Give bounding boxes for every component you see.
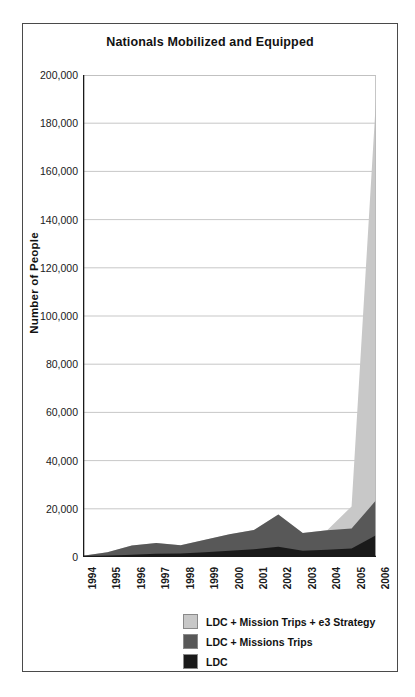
legend-item: LDC + Mission Trips + e3 Strategy (183, 612, 383, 631)
y-axis-label: Number of People (28, 203, 40, 363)
legend-item: LDC (183, 652, 383, 671)
chart-svg (83, 75, 376, 557)
chart-figure: Nationals Mobilized and Equipped Number … (22, 23, 398, 672)
x-tick-label: 2000 (234, 567, 245, 589)
y-tick-label: 120,000 (40, 262, 78, 274)
y-tick-label: 0 (72, 551, 78, 563)
x-tick-label: 2002 (282, 567, 293, 589)
legend-label: LDC (206, 656, 228, 668)
legend-swatch-icon (183, 654, 198, 669)
y-tick-label: 40,000 (46, 455, 78, 467)
y-tick-label: 80,000 (46, 358, 78, 370)
y-tick-label: 100,000 (40, 310, 78, 322)
x-tick-label: 1994 (87, 567, 98, 589)
x-tick-label: 1996 (136, 567, 147, 589)
legend-swatch-icon (183, 614, 198, 629)
x-tick-label: 1997 (160, 567, 171, 589)
x-tick-label: 2001 (258, 567, 269, 589)
plot-wrapper: 020,00040,00060,00080,000100,000120,0001… (83, 75, 376, 557)
x-tick-label: 1998 (185, 567, 196, 589)
chart-legend: LDC + Mission Trips + e3 StrategyLDC + M… (183, 612, 383, 672)
x-tick-label: 2003 (307, 567, 318, 589)
x-tick-label: 1999 (209, 567, 220, 589)
legend-swatch-icon (183, 634, 198, 649)
plot-area (83, 75, 376, 557)
y-tick-label: 180,000 (40, 117, 78, 129)
y-tick-label: 140,000 (40, 214, 78, 226)
y-tick-label: 60,000 (46, 406, 78, 418)
x-tick-label: 2004 (331, 567, 342, 589)
y-tick-label: 20,000 (46, 503, 78, 515)
legend-label: LDC + Missions Trips (206, 636, 312, 648)
chart-title: Nationals Mobilized and Equipped (23, 35, 397, 49)
x-tick-label: 2005 (356, 567, 367, 589)
y-tick-label: 160,000 (40, 165, 78, 177)
y-tick-label: 200,000 (40, 69, 78, 81)
legend-item: LDC + Missions Trips (183, 632, 383, 651)
legend-label: LDC + Mission Trips + e3 Strategy (206, 616, 375, 628)
x-tick-label: 1995 (111, 567, 122, 589)
x-tick-label: 2006 (380, 567, 391, 589)
area-series-ldc-mission-trips-e3-strategy (83, 99, 376, 557)
